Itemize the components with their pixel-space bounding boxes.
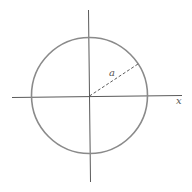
x-axis-label: x — [176, 95, 182, 106]
radius-label: a — [109, 67, 115, 78]
x-axis — [12, 96, 182, 98]
circle-diagram: a x — [0, 0, 192, 192]
